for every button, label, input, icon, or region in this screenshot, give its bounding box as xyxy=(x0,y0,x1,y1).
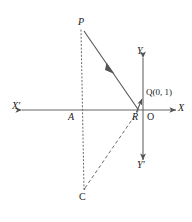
point-label-r: R xyxy=(132,112,138,122)
axis-label-x-prime: X′ xyxy=(12,101,20,111)
point-label-q: Q(0, 1) xyxy=(146,88,172,97)
caption-strip xyxy=(0,210,192,222)
point-label-p: P xyxy=(78,17,84,27)
point-label-a: A xyxy=(68,112,74,122)
segment-r-c xyxy=(85,111,138,188)
point-label-c: C xyxy=(79,192,86,202)
segment-p-r xyxy=(84,31,139,110)
geometry-figure: X′ X Y Y′ P Q(0, 1) R O A C xyxy=(0,0,192,222)
axis-label-x: X xyxy=(178,103,184,113)
axis-label-y-prime: Y′ xyxy=(137,160,145,170)
point-label-o: O xyxy=(147,112,154,122)
point-marker-c xyxy=(84,188,86,190)
axis-label-y: Y xyxy=(137,46,143,56)
geometry-canvas xyxy=(0,0,192,222)
